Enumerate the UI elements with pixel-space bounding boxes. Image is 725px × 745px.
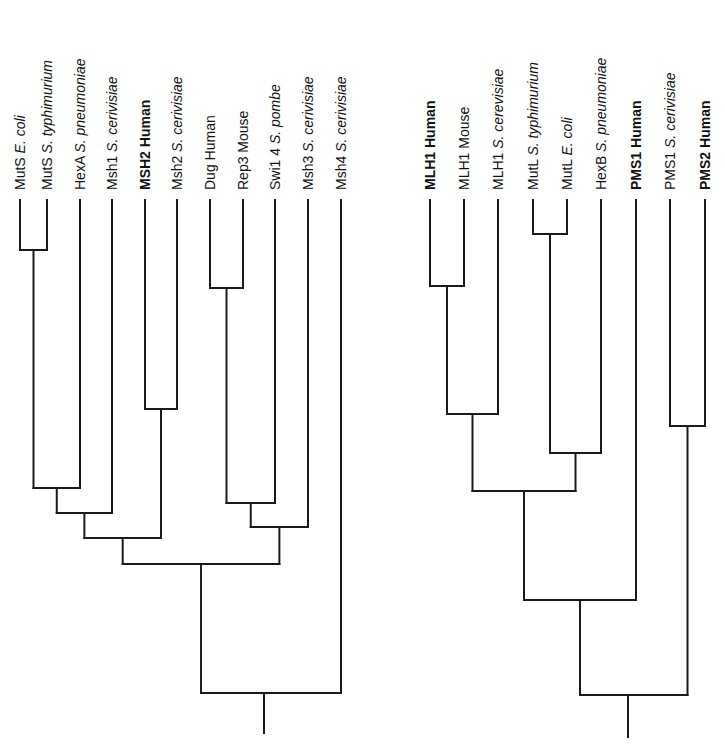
left-leaf-label: Msh1 S. cerivisiae	[104, 76, 120, 190]
gene-name: Msh2	[169, 152, 185, 190]
species-name: Human	[422, 101, 438, 148]
left-leaf-label: Swi1 4 S. pombe	[267, 84, 283, 190]
species-name: S. cerivisiae	[169, 76, 185, 151]
right-leaf-label: MLH1 S. cerevisiae	[490, 69, 506, 190]
gene-name: Swi1 4	[267, 144, 283, 190]
left-leaf-label: Msh3 S. cerivisiae	[300, 76, 316, 190]
right-leaf-label: MutL E. coli	[559, 117, 575, 190]
species-name: S. cerivisiae	[104, 76, 120, 151]
species-name: S. cerivisiae	[333, 76, 349, 151]
species-name: S. cerevisiae	[490, 69, 506, 149]
species-name: S. pneumoniae	[593, 58, 609, 152]
gene-name: Dug	[202, 160, 218, 190]
right-leaf-label: PMS1 Human	[628, 101, 644, 190]
species-name: E. coli	[12, 115, 28, 153]
left-leaf-label: MutS S. typhimurium	[39, 60, 55, 190]
right-leaf-label: PMS1 S. cerivisiae	[662, 73, 678, 190]
gene-name: MLH1	[490, 149, 506, 190]
right-leaf-label: HexB S. pneumoniae	[593, 58, 609, 190]
gene-name: MutL	[525, 156, 541, 191]
left-leaf-label: Msh4 S. cerivisiae	[333, 76, 349, 190]
gene-name: MutL	[559, 156, 575, 191]
gene-name: Msh4	[333, 152, 349, 190]
species-name: Human	[628, 101, 644, 148]
species-name: S. pneumoniae	[72, 58, 88, 152]
right-leaf-label: MutL S. typhimurium	[525, 62, 541, 190]
phylogenetic-tree-figure: MutS E. coliMutS S. typhimuriumHexA S. p…	[0, 0, 725, 745]
right-leaf-label: PMS2 Human	[697, 101, 713, 190]
species-name: Human	[202, 115, 218, 160]
left-leaf-label: Dug Human	[202, 115, 218, 190]
gene-name: MutS	[39, 153, 55, 190]
left-leaf-label: Rep3 Mouse	[235, 111, 251, 190]
gene-name: MSH2	[137, 147, 153, 190]
left-leaf-label: HexA S. pneumoniae	[72, 58, 88, 190]
gene-name: HexA	[72, 153, 88, 190]
left-leaf-label: MSH2 Human	[137, 100, 153, 190]
species-name: S. typhimurium	[39, 60, 55, 153]
gene-name: MLH1	[422, 148, 438, 190]
gene-name: Msh3	[300, 152, 316, 190]
gene-name: Rep3	[235, 153, 251, 190]
species-name: Mouse	[456, 107, 472, 149]
species-name: S. pombe	[267, 84, 283, 144]
gene-name: HexB	[593, 152, 609, 190]
species-name: Human	[697, 101, 713, 148]
species-name: S. cerivisiae	[662, 73, 678, 148]
species-name: Mouse	[235, 111, 251, 153]
left-leaf-label: MutS E. coli	[12, 115, 28, 190]
gene-name: PMS1	[628, 148, 644, 190]
gene-name: PMS2	[697, 148, 713, 190]
species-name: S. cerivisiae	[300, 76, 316, 151]
species-name: E. coli	[559, 117, 575, 155]
species-name: S. typhimurium	[525, 62, 541, 155]
gene-name: MutS	[12, 153, 28, 190]
right-leaf-label: MLH1 Human	[422, 101, 438, 190]
right-leaf-label: MLH1 Mouse	[456, 107, 472, 190]
left-leaf-label: Msh2 S. cerivisiae	[169, 76, 185, 190]
species-name: Human	[137, 100, 153, 147]
gene-name: Msh1	[104, 152, 120, 190]
gene-name: MLH1	[456, 149, 472, 190]
gene-name: PMS1	[662, 148, 678, 190]
